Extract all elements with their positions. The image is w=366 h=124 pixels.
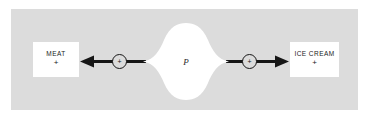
ice-cream-node-label: ICE CREAM [294,51,334,58]
diagram-figure: P + + MEAT + ICE CREAM + [0,0,366,124]
p-cloud-node: P [140,20,232,104]
meat-node-sign: + [54,59,59,67]
ice-cream-node-box: ICE CREAM + [290,42,339,77]
operator-left-symbol: + [117,58,121,65]
operator-right-symbol: + [247,58,251,65]
meat-node-label: MEAT [46,51,65,58]
operator-node-left-plus: + [112,54,127,69]
ice-cream-node-sign: + [312,59,317,67]
p-cloud-label: P [140,20,232,104]
operator-node-right-plus: + [242,54,257,69]
meat-node-box: MEAT + [33,42,79,77]
edge-p-to-meat-arrowhead [80,56,94,68]
edge-p-to-icecream-arrowhead [275,56,289,68]
